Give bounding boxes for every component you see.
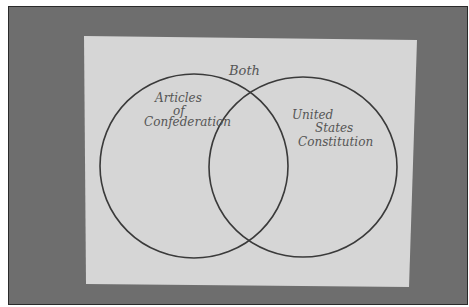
label-right-line1: United: [292, 108, 334, 122]
label-right-line3: Constitution: [298, 135, 373, 149]
photo-frame: Both Articles of Confederation United St…: [8, 6, 468, 305]
label-right-line2: States: [315, 121, 353, 135]
venn-diagram: Both Articles of Confederation United St…: [9, 7, 468, 305]
label-left-line1: Articles: [154, 91, 202, 105]
label-left-line3: Confederation: [144, 115, 231, 129]
label-both: Both: [228, 63, 260, 78]
